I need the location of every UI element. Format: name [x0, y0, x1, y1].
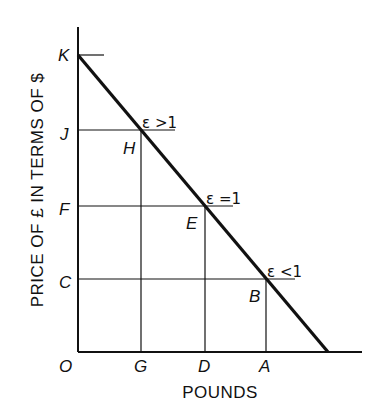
x-label-g: G: [134, 357, 147, 376]
y-label-f: F: [59, 200, 71, 219]
elasticity-label-inelastic: ε <1: [267, 263, 302, 281]
y-label-k: K: [58, 46, 70, 65]
demand-line: [78, 55, 328, 352]
y-axis-title: PRICE OF £ IN TERMS OF $: [28, 73, 47, 308]
x-label-a: A: [258, 357, 270, 376]
elasticity-diagram: K J F C O G D A H E B ε >1 ε =1 ε <1 PRI…: [0, 0, 380, 419]
elasticity-label-elastic: ε >1: [142, 114, 177, 132]
x-label-d: D: [198, 357, 210, 376]
point-label-h: H: [123, 139, 136, 158]
point-label-e: E: [186, 214, 198, 233]
point-label-b: B: [249, 287, 260, 306]
x-axis-title: POUNDS: [182, 383, 258, 402]
origin-label: O: [59, 357, 72, 376]
elasticity-label-unit: ε =1: [206, 190, 241, 208]
y-label-c: C: [59, 273, 72, 292]
y-label-j: J: [59, 125, 69, 144]
